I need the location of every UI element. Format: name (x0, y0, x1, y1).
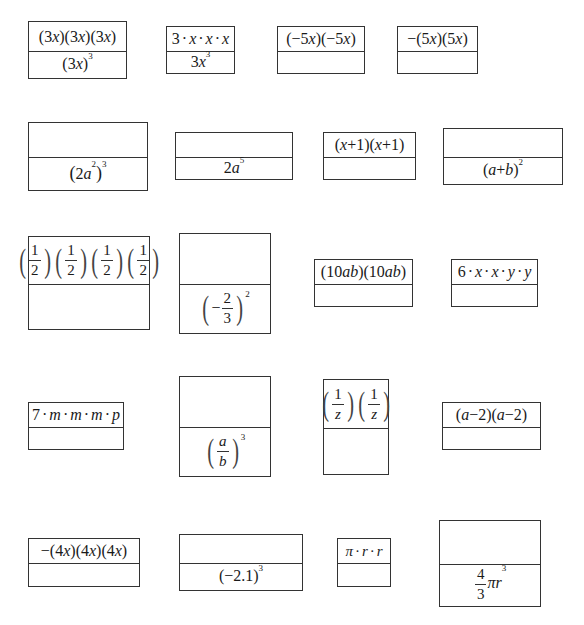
expression-card-11: (10ab)(10ab) (314, 259, 413, 307)
card-bottom-cell: 2a5 (176, 156, 292, 179)
card-answer-blank[interactable] (29, 123, 147, 157)
card-answer-blank[interactable] (180, 535, 302, 563)
card-bottom-cell: 3x3 (167, 50, 234, 73)
card-answer-blank[interactable] (398, 50, 477, 73)
card-answer-blank[interactable] (176, 133, 292, 157)
card-answer-blank[interactable] (452, 283, 537, 306)
expression-card-5: (2a2)3 (28, 122, 148, 191)
card-answer-blank[interactable] (180, 234, 270, 284)
card-top-cell: −(4x)(4x)(4x) (29, 539, 139, 563)
expression-card-16: (a−2)(a−2) (442, 402, 541, 450)
expression-card-7: (x+1)(x+1) (323, 132, 416, 180)
card-answer-blank[interactable] (338, 562, 390, 586)
card-top-cell: (1z)(1z) (324, 380, 388, 428)
card-bottom-cell: (2a2)3 (29, 156, 147, 190)
card-bottom-cell: (ab)3 (180, 426, 270, 476)
card-bottom-cell: (a+b)2 (444, 156, 562, 184)
card-bottom-cell: (3x)3 (29, 50, 126, 78)
expression-card-4: −(5x)(5x) (397, 26, 478, 74)
expression-card-6: 2a5 (175, 132, 293, 180)
card-top-cell: (−5x)(−5x) (278, 27, 364, 51)
card-top-cell: (12)(12)(12)(12) (29, 237, 149, 284)
card-answer-blank[interactable] (324, 427, 388, 474)
card-top-cell: (3x)(3x)(3x) (29, 22, 126, 51)
card-top-cell: 3·x·x·x (167, 27, 234, 51)
expression-card-3: (−5x)(−5x) (277, 26, 365, 74)
card-top-cell: (x+1)(x+1) (324, 133, 415, 157)
expression-card-15: (1z)(1z) (323, 379, 389, 475)
expression-card-9: (12)(12)(12)(12) (28, 236, 150, 330)
expression-card-12: 6·x·x·y·y (451, 259, 538, 307)
expression-card-10: (−23)2 (179, 233, 271, 334)
expression-card-19: π·r·r (337, 538, 391, 587)
card-answer-blank[interactable] (324, 156, 415, 179)
card-answer-blank[interactable] (29, 562, 139, 586)
card-top-cell: 7·m·m·m·p (29, 403, 123, 427)
card-bottom-cell: (−23)2 (180, 283, 270, 333)
card-top-cell: (a−2)(a−2) (443, 403, 540, 427)
card-top-cell: −(5x)(5x) (398, 27, 477, 51)
card-answer-blank[interactable] (443, 426, 540, 449)
expression-card-18: (−2.1)3 (179, 534, 303, 591)
card-bottom-cell: 43πr3 (440, 563, 540, 606)
card-bottom-cell: (−2.1)3 (180, 562, 302, 590)
expression-card-20: 43πr3 (439, 520, 541, 607)
expression-card-1: (3x)(3x)(3x) (3x)3 (28, 21, 127, 79)
card-answer-blank[interactable] (180, 377, 270, 427)
card-top-cell: (10ab)(10ab) (315, 260, 412, 284)
card-answer-blank[interactable] (29, 426, 123, 449)
expression-card-13: 7·m·m·m·p (28, 402, 124, 450)
expression-card-14: (ab)3 (179, 376, 271, 477)
card-answer-blank[interactable] (29, 283, 149, 329)
card-answer-blank[interactable] (278, 50, 364, 73)
card-top-cell: 6·x·x·y·y (452, 260, 537, 284)
card-answer-blank[interactable] (440, 521, 540, 564)
expression-card-8: (a+b)2 (443, 128, 563, 185)
card-answer-blank[interactable] (444, 129, 562, 157)
card-answer-blank[interactable] (315, 283, 412, 306)
card-top-cell: π·r·r (338, 539, 390, 563)
expression-card-17: −(4x)(4x)(4x) (28, 538, 140, 587)
expression-card-2: 3·x·x·x 3x3 (166, 26, 235, 74)
